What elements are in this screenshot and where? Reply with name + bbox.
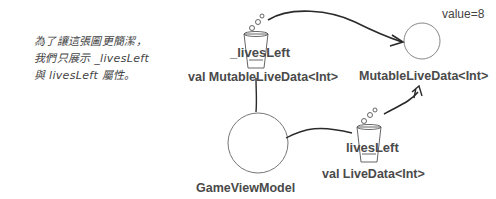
view-model-label: GameViewModel xyxy=(196,181,295,195)
connector-viewmodel-to-public xyxy=(286,128,352,138)
note-line: 我們只展示 _livesLeft xyxy=(34,50,184,67)
arrow-private-to-object xyxy=(268,11,402,42)
note-line: 與 livesLeft 屬性。 xyxy=(34,67,184,84)
private-property-type: val MutableLiveData<Int> xyxy=(188,70,338,84)
live-data-value: value=8 xyxy=(442,7,484,21)
mutable-live-data-circle xyxy=(404,23,440,59)
arrow-public-to-object xyxy=(384,92,418,114)
private-property-name: _livesLeft xyxy=(230,45,290,60)
public-property-type: val LiveData<Int> xyxy=(322,167,425,181)
annotation-note: 為了讓這張圖更簡潔， 我們只展示 _livesLeft 與 livesLeft … xyxy=(34,33,184,84)
note-line: 為了讓這張圖更簡潔， xyxy=(34,33,184,50)
game-view-model-circle xyxy=(228,113,288,173)
live-data-object-label: MutableLiveData<Int> xyxy=(359,69,488,83)
public-property-name: livesLeft xyxy=(346,140,399,155)
